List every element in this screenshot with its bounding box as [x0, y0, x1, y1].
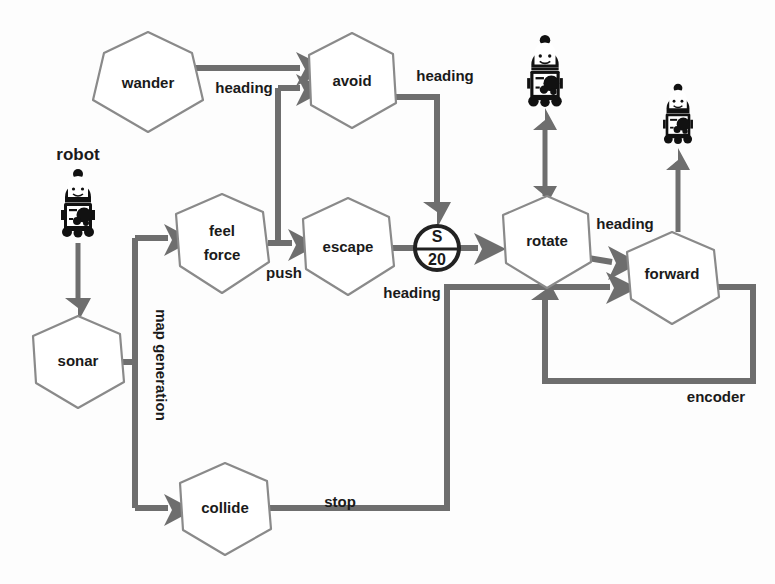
node-s20[interactable]: S 20 [415, 226, 459, 270]
robot-icon-rotate [527, 35, 563, 107]
node-sonar[interactable]: sonar [33, 316, 124, 408]
node-escape-label: escape [323, 238, 374, 255]
diagram-canvas: wander avoid feel force escape [0, 0, 775, 584]
edge-label-wander-avoid: heading [215, 79, 273, 96]
robot-behavior-diagram: wander avoid feel force escape [0, 0, 775, 584]
node-escape[interactable]: escape [303, 198, 394, 295]
edge-avoid-to-s20 [392, 97, 437, 204]
node-s20-label-bottom: 20 [428, 251, 446, 268]
node-feel-force[interactable]: feel force [176, 194, 269, 293]
node-collide-label: collide [201, 499, 249, 516]
edge-label-escape-s20: heading [383, 284, 441, 301]
arrowhead-rotate-left [474, 233, 506, 265]
node-feel-force-label-line1: feel [209, 222, 235, 239]
node-s20-label-top: S [432, 228, 443, 245]
edge-label-stop: stop [324, 493, 356, 510]
edge-label-rotate-forward: heading [596, 215, 654, 232]
robot-icon-forward [663, 84, 693, 144]
edge-label-encoder: encoder [687, 388, 746, 405]
node-collide[interactable]: collide [180, 463, 271, 555]
node-feel-force-label-line2: force [204, 246, 241, 263]
node-avoid[interactable]: avoid [309, 33, 396, 128]
arrowhead-forward-robot-up [666, 148, 690, 170]
node-forward-label: forward [644, 265, 699, 282]
node-wander-label: wander [121, 74, 175, 91]
edge-label-avoid-s20: heading [416, 67, 474, 84]
node-avoid-label: avoid [332, 72, 371, 89]
node-rotate[interactable]: rotate [503, 196, 591, 288]
edge-label-feelforce-escape: push [266, 264, 302, 281]
arrowhead-rotate-robot-up [533, 108, 557, 130]
edge-label-map-generation: map generation [153, 309, 170, 421]
node-forward[interactable]: forward [627, 232, 719, 324]
edge-collide-stop-path [268, 287, 610, 508]
robot-sonar-label: robot [56, 145, 100, 164]
node-rotate-label: rotate [526, 232, 568, 249]
node-sonar-label: sonar [58, 352, 99, 369]
node-wander[interactable]: wander [93, 32, 203, 132]
robot-icon-sonar: robot [56, 145, 100, 237]
